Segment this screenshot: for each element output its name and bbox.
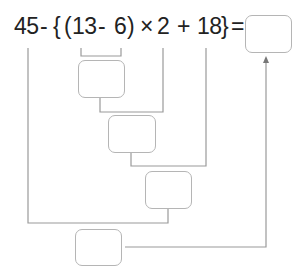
paren-open: ( [64,13,71,40]
brace-open: { [53,13,60,40]
answer-box-step2[interactable] [108,115,156,153]
answer-box-step3[interactable] [145,171,192,209]
answer-box-step4[interactable] [75,229,122,266]
paren-close: ) [127,13,134,40]
connector-step4-to-answer [125,62,266,247]
operator-minus: - [98,13,105,40]
bracket-13-minus-6 [81,48,121,56]
answer-box-step1[interactable] [78,60,125,98]
operator-minus: - [40,13,47,40]
arrow-up-icon [263,56,269,63]
answer-box-final[interactable] [245,15,292,53]
term-45: 45 [14,13,39,40]
term-13: 13 [72,13,97,40]
term-2: 2 [157,13,169,40]
operator-equals: = [231,13,244,40]
term-6: 6 [114,13,126,40]
term-18: 18 [197,13,222,40]
operator-plus: + [177,13,190,40]
brace-close: } [221,13,228,40]
operator-times: × [140,13,153,40]
